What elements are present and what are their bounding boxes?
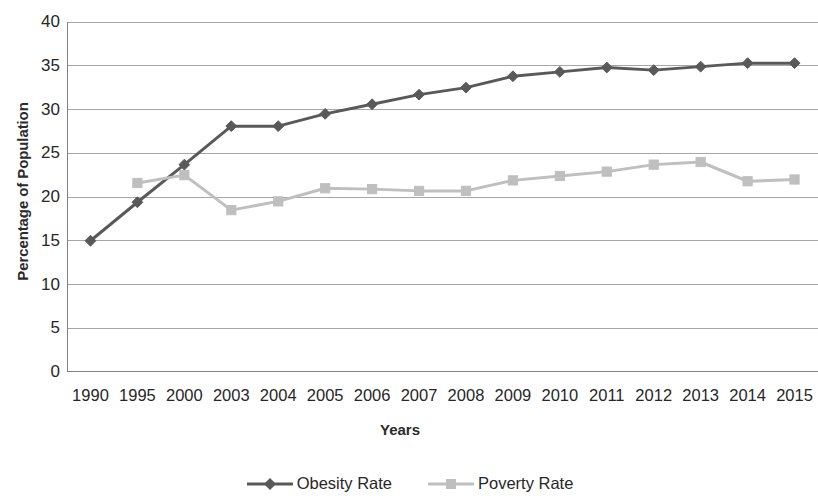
y-tick-label-15: 15: [20, 232, 60, 249]
legend-swatch-square-icon: [426, 475, 476, 493]
data-point-2003: [227, 206, 236, 215]
data-point-2008: [461, 82, 472, 93]
data-point-2008: [461, 186, 470, 195]
data-point-2013: [695, 61, 706, 72]
data-point-2010: [554, 66, 565, 77]
data-point-2009: [508, 71, 519, 82]
data-point-2000: [180, 171, 189, 180]
y-tick-label-20: 20: [20, 188, 60, 205]
x-axis-title: Years: [0, 421, 818, 438]
data-point-2010: [555, 171, 564, 180]
data-point-2006: [367, 185, 376, 194]
data-point-2015: [790, 175, 799, 184]
data-point-2015: [789, 58, 800, 69]
data-point-2014: [742, 58, 753, 69]
legend-label: Obesity Rate: [297, 474, 392, 493]
legend-item-obesity-rate[interactable]: Obesity Rate: [245, 474, 392, 493]
series-poverty-rate: [133, 157, 799, 214]
data-point-2013: [696, 157, 705, 166]
y-tick-label-30: 30: [20, 101, 60, 118]
plot-area: [67, 22, 818, 372]
x-tick-label-2015: 2015: [765, 386, 818, 405]
line-chart: Percentage of Population 403530252015105…: [0, 0, 818, 502]
legend-item-poverty-rate[interactable]: Poverty Rate: [426, 474, 573, 493]
data-point-2005: [320, 108, 331, 119]
data-point-2007: [414, 89, 425, 100]
data-point-2011: [602, 167, 611, 176]
x-axis-tick-labels: 1990199520002003200420052006200720082009…: [67, 386, 818, 412]
y-tick-label-0: 0: [20, 363, 60, 380]
y-tick-label-5: 5: [20, 319, 60, 336]
data-point-2012: [648, 65, 659, 76]
legend-label: Poverty Rate: [478, 474, 573, 493]
y-tick-label-25: 25: [20, 144, 60, 161]
series-line-0: [90, 63, 794, 241]
y-tick-label-10: 10: [20, 276, 60, 293]
data-point-2006: [367, 99, 378, 110]
data-point-2009: [508, 176, 517, 185]
series-obesity-rate: [85, 58, 800, 246]
data-point-2007: [414, 186, 423, 195]
data-point-2014: [743, 177, 752, 186]
data-point-2011: [601, 62, 612, 73]
chart-legend: Obesity RatePoverty Rate: [0, 474, 818, 493]
data-point-2012: [649, 160, 658, 169]
y-tick-label-35: 35: [20, 57, 60, 74]
legend-swatch-diamond-icon: [245, 475, 295, 493]
plot-svg: [67, 22, 818, 372]
data-point-2005: [321, 184, 330, 193]
data-point-2004: [274, 197, 283, 206]
x-axis-title-text: Years: [380, 421, 420, 438]
data-point-1995: [133, 178, 142, 187]
y-tick-label-40: 40: [20, 13, 60, 30]
data-point-2004: [273, 121, 284, 132]
